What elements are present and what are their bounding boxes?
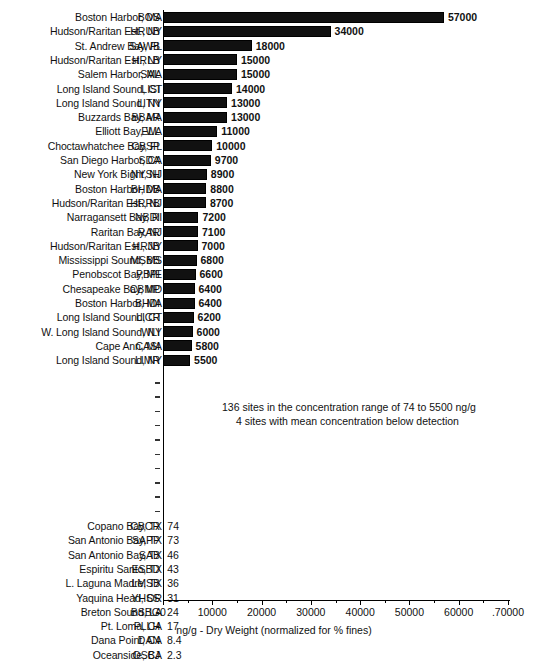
annotation-line-1: 136 sites in the concentration range of …: [222, 401, 476, 413]
row-site-code: CBCR: [118, 519, 160, 533]
chart-row: St. Andrew Bay, FLSAWB18000: [0, 39, 536, 53]
row-site-code: MSBB: [118, 253, 160, 267]
chart-row: Copano Bay, TXCBCR74: [0, 519, 536, 533]
chart-row: Long Island Sound, CTLISI14000: [0, 82, 536, 96]
row-site-code: CASI: [118, 339, 160, 353]
row-site-code: HRLB: [118, 53, 160, 67]
axis-break-tick: [155, 439, 160, 441]
chart-row: San Antonio Bay, TXSAB46: [0, 548, 536, 562]
axis-break-tick: [155, 482, 160, 484]
row-site-code: SAB: [118, 548, 160, 562]
row-site-code: BHDI: [118, 296, 160, 310]
bar: [163, 12, 444, 23]
bar: [163, 183, 206, 194]
bar: [163, 326, 193, 337]
row-site-code: LICR: [118, 310, 160, 324]
bar: [163, 355, 190, 366]
chart-row: Narragansett Bay, RINBDI7200: [0, 210, 536, 224]
bar-value-label: 24: [167, 605, 179, 619]
row-site-code: HRUB: [118, 24, 160, 38]
chart-row: Long Island Sound, CTLICR6200: [0, 310, 536, 324]
x-tick-label: 50000: [395, 606, 424, 618]
row-site-code: NYSH: [118, 167, 160, 181]
bar-value-label: 6800: [201, 253, 224, 267]
bar-value-label: 6600: [200, 267, 223, 281]
x-tick-label: 0: [160, 606, 166, 618]
chart-row: Buzzards Bay, MABBAR13000: [0, 110, 536, 124]
chart-row: Hudson/Raritan Est., NYHRLB15000: [0, 53, 536, 67]
bar: [163, 340, 192, 351]
bar: [163, 283, 195, 294]
x-tick: [163, 600, 164, 605]
bar: [163, 83, 232, 94]
bar-value-label: 46: [167, 548, 179, 562]
x-tick: [212, 600, 213, 605]
x-tick: [360, 600, 361, 605]
row-site-code: CBMP: [118, 282, 160, 296]
chart-row: Long Island Sound, NYLITN13000: [0, 96, 536, 110]
chart-row: Yaquina Head, ORYHSS31: [0, 591, 536, 605]
x-tick-label: .70000: [492, 606, 524, 618]
row-site-code: ELL: [118, 124, 160, 138]
bar: [163, 226, 198, 237]
row-site-code: LITN: [118, 96, 160, 110]
x-tick-minor: [237, 600, 238, 603]
chart-annotation: 136 sites in the concentration range of …: [222, 401, 476, 428]
chart-row: Hudson/Raritan Est., NJHRRB8700: [0, 196, 536, 210]
bar-value-label: 13000: [231, 96, 260, 110]
bar-value-label: 36: [167, 576, 179, 590]
row-site-code: LISI: [118, 82, 160, 96]
axis-break-tick: [155, 511, 160, 513]
x-tick-minor: [188, 600, 189, 603]
axis-break-tick: [155, 396, 160, 398]
x-tick-label: 60000: [444, 606, 473, 618]
bar-value-label: 73: [167, 533, 179, 547]
bar: [163, 212, 198, 223]
bar-value-label: 31: [167, 591, 179, 605]
bar-value-label: 57000: [448, 10, 477, 24]
bar: [163, 140, 212, 151]
bar-value-label: 10000: [216, 139, 245, 153]
row-site-code: SAL: [118, 67, 160, 81]
bar-value-label: 9700: [215, 153, 238, 167]
x-tick: [409, 600, 410, 605]
chart-row: Long Island Sound, NYLIMR5500: [0, 353, 536, 367]
row-site-code: NBDI: [118, 210, 160, 224]
chart-row: Espiritu Santo, TXESBD43: [0, 562, 536, 576]
x-tick-label: 30000: [296, 606, 325, 618]
bar-value-label: 6400: [199, 282, 222, 296]
row-site-code: WLI: [118, 325, 160, 339]
row-site-code: SAWB: [118, 39, 160, 53]
row-site-code: PBPI: [118, 267, 160, 281]
x-tick: [459, 600, 460, 605]
bar-value-label: 43: [167, 562, 179, 576]
row-site-code: BBAR: [118, 110, 160, 124]
bar-value-label: 2.3: [167, 648, 182, 662]
axis-break-tick: [155, 411, 160, 413]
chart-row: Oceanside, CAOSBJ2.3: [0, 648, 536, 662]
chart-row: Penobscot Bay, MEPBPI6600: [0, 267, 536, 281]
chart-row: Cape Ann, MACASI5800: [0, 339, 536, 353]
bar-value-label: 13000: [231, 110, 260, 124]
chart-row: San Diego Harbor, CASDA9700: [0, 153, 536, 167]
bar: [163, 240, 198, 251]
bar: [163, 298, 195, 309]
bar: [163, 126, 217, 137]
bar: [163, 69, 237, 80]
chart-row: San Antonio Bay, TXSAPP73: [0, 533, 536, 547]
bar-value-label: 18000: [256, 39, 285, 53]
bar: [163, 26, 331, 37]
chart-row: Mississippi Sound, MSMSBB6800: [0, 253, 536, 267]
bar: [163, 155, 211, 166]
x-tick-label: 10000: [198, 606, 227, 618]
bar: [163, 112, 227, 123]
chart-row: Elliott Bay, WAELL11000: [0, 124, 536, 138]
x-tick-label: 40000: [346, 606, 375, 618]
bar: [163, 40, 252, 51]
bar: [163, 312, 194, 323]
row-site-code: HRRB: [118, 196, 160, 210]
row-site-code: RAR: [118, 225, 160, 239]
x-axis-title-text: ng/g - Dry Weight (normalized for % fine…: [176, 624, 371, 636]
row-site-code: LIMR: [118, 353, 160, 367]
